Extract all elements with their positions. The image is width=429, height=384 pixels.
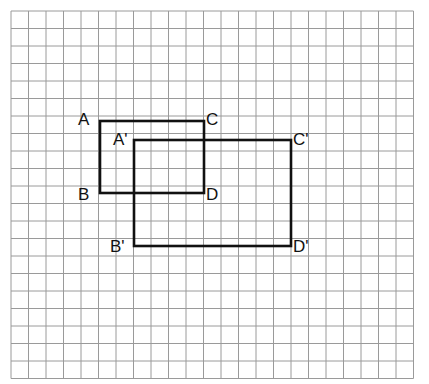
vertex-label-d: D bbox=[206, 185, 218, 204]
grid-figure-svg: ACBDA'C'B'D' bbox=[0, 0, 429, 384]
vertex-label-a-prime: A' bbox=[113, 130, 128, 149]
vertex-label-d-prime: D' bbox=[293, 237, 309, 256]
vertex-label-a: A bbox=[78, 110, 90, 129]
figure-canvas: ACBDA'C'B'D' bbox=[0, 0, 429, 384]
vertex-label-b: B bbox=[78, 185, 89, 204]
vertex-label-b-prime: B' bbox=[110, 237, 125, 256]
vertex-label-c-prime: C' bbox=[293, 130, 309, 149]
vertex-label-c: C bbox=[206, 110, 218, 129]
